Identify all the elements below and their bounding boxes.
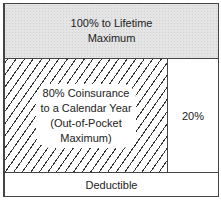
- coinsurance-label: 80% Coinsurance to a Calendar Year (Out-…: [36, 84, 135, 148]
- insured-share-label: 20%: [182, 110, 204, 122]
- coinsurance-box: 80% Coinsurance to a Calendar Year (Out-…: [5, 59, 168, 173]
- lifetime-maximum-box: 100% to Lifetime Maximum: [5, 4, 218, 59]
- lifetime-maximum-label: 100% to Lifetime Maximum: [71, 16, 153, 46]
- insured-share-box: 20%: [168, 59, 218, 173]
- coverage-diagram: 100% to Lifetime Maximum 80% Coinsurance…: [3, 3, 219, 197]
- deductible-box: Deductible: [5, 173, 218, 196]
- deductible-label: Deductible: [86, 179, 138, 191]
